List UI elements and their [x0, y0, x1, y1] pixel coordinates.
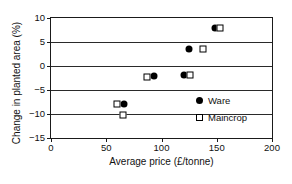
gridline [51, 90, 272, 91]
data-point-maincrop [114, 101, 121, 108]
filled-circle-icon [196, 97, 203, 104]
x-axis-tick-label: 50 [101, 143, 112, 153]
y-axis-tick [47, 42, 51, 43]
data-point-ware [150, 73, 157, 80]
x-axis-tick-label: 100 [154, 143, 170, 153]
x-axis-tick-label: 150 [209, 143, 225, 153]
legend-item-ware: Ware [196, 92, 247, 109]
data-point-ware [186, 46, 193, 53]
x-axis-title: Average price (£/tonne) [50, 157, 273, 167]
x-axis-tick-label: 200 [264, 143, 280, 153]
legend-label-ware: Ware [208, 96, 230, 106]
y-axis-tick-label: −5 [34, 85, 45, 95]
legend-item-maincrop: Maincrop [196, 109, 247, 126]
open-square-icon [196, 114, 203, 121]
y-axis-title: Change in planted area (%) [12, 13, 22, 153]
data-point-maincrop [144, 74, 151, 81]
y-axis-tick-label: 10 [34, 13, 45, 23]
chart-legend: Ware Maincrop [196, 92, 247, 126]
data-point-ware [120, 101, 127, 108]
y-axis-tick-label: −10 [29, 109, 45, 119]
data-point-maincrop [200, 46, 207, 53]
data-point-maincrop [119, 112, 126, 119]
y-axis-tick-label: −15 [29, 133, 45, 143]
y-axis-tick [47, 66, 51, 67]
data-point-maincrop [217, 24, 224, 31]
scatter-chart-figure: 1050−5−10−15050100150200 Change in plant… [0, 0, 292, 184]
data-point-maincrop [187, 71, 194, 78]
y-axis-tick-label: 0 [40, 61, 45, 71]
gridline [51, 66, 272, 67]
legend-label-maincrop: Maincrop [208, 113, 247, 123]
y-axis-tick [47, 114, 51, 115]
x-axis-tick-label: 0 [48, 143, 53, 153]
y-axis-tick-label: 5 [40, 37, 45, 47]
y-axis-tick [47, 90, 51, 91]
gridline [51, 42, 272, 43]
y-axis-tick [47, 18, 51, 19]
